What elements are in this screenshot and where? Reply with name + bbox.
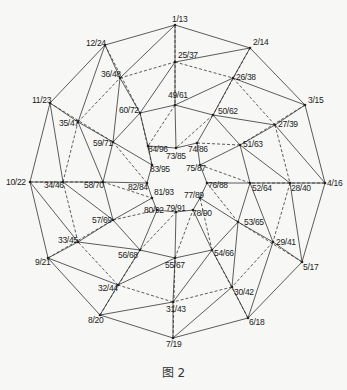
vertex-dot [139,112,142,115]
vertex-dot [112,219,115,222]
vertex-dot [151,197,154,200]
edge [113,113,140,142]
figure-caption: 图 2 [0,363,347,380]
vertex-dot [29,181,32,184]
vertex-dot [172,301,175,304]
edge [140,250,175,258]
vertex-label: 27/39 [278,119,298,129]
vertex-label: 5/17 [303,262,319,272]
edge [50,103,63,182]
edge [78,122,103,182]
vertex-dot [211,249,214,252]
edge [78,78,120,122]
vertex-label: 57/69 [92,215,112,225]
vertex-dot [139,249,142,252]
vertex-label: 12/24 [86,38,106,48]
edge [113,142,152,165]
polyhedron-diagram: 1/132/143/154/165/176/187/198/209/2110/2… [0,0,347,390]
edge [78,45,105,122]
vertex-label: 30/42 [234,287,254,297]
edge [173,250,212,302]
edge [140,210,157,250]
vertex-dot [174,104,177,107]
edge [248,242,273,318]
edge [148,105,175,146]
vertex-dot [274,124,277,127]
edge [302,183,325,262]
edge [273,183,290,242]
vertex-label: 82/84 [128,182,148,192]
vertex-label: 53/65 [244,217,264,227]
vertex-dot [249,47,252,50]
edge [30,103,50,182]
edge [105,45,140,113]
vertex-label: 58/70 [84,180,104,190]
vertex-dot [249,182,252,185]
vertex-label: 77/89 [184,190,204,200]
vertex-label: 8/20 [88,315,104,325]
vertex-label: 79/91 [166,203,186,213]
edge [240,145,290,183]
vertex-label: 49/61 [168,90,188,100]
edge [175,212,176,258]
vertex-label: 84/96 [148,144,168,154]
vertex-label: 9/21 [35,257,51,267]
vertex-label: 32/44 [98,283,118,293]
edge [78,242,140,250]
vertex-label: 54/66 [214,248,234,258]
vertex-dot [174,257,177,260]
vertex-dot [272,241,275,244]
vertices [29,24,327,340]
vertex-label: 76/88 [208,180,228,190]
vertex-label: 73/85 [166,151,186,161]
edge [50,45,105,103]
edge [63,122,78,182]
vertex-label: 35/47 [59,118,79,128]
vertex-label: 80/92 [144,205,164,215]
vertex-label: 7/19 [166,339,182,349]
vertex-label: 3/15 [308,95,324,105]
edge [213,115,240,145]
edge [197,115,213,143]
edge [103,142,113,182]
edge [48,258,118,285]
edge [290,183,302,262]
edge [78,242,118,285]
edge [118,285,173,302]
vertex-label: 25/37 [178,50,198,60]
vertex-label: 11/23 [32,95,52,105]
edges [30,25,325,338]
edge [213,115,275,125]
vertex-label: 59/71 [93,138,113,148]
vertex-dot [174,61,177,64]
vertex-label: 55/67 [165,260,185,270]
edge [233,78,275,125]
vertex-label: 31/43 [166,304,186,314]
vertex-dot [324,182,327,185]
vertex-dot [175,147,178,150]
vertex-label: 33/45 [58,235,78,245]
vertex-label: 26/38 [236,72,256,82]
vertex-dot [239,144,242,147]
edge [240,145,250,183]
vertex-label: 81/93 [154,187,174,197]
vertex-label: 83/95 [150,164,170,174]
vertex-dot [232,77,235,80]
vertex-dot [174,24,177,27]
vertex-label: 75/87 [186,163,206,173]
vertex-label: 28/40 [291,183,311,193]
vertex-labels: 1/132/143/154/165/176/187/198/209/2110/2… [6,14,343,349]
edge [175,210,193,258]
edge [113,142,147,183]
edge [175,105,213,115]
vertex-label: 4/16 [327,178,343,188]
vertex-label: 2/14 [253,37,269,47]
vertex-label: 1/13 [172,14,188,24]
vertex-label: 34/46 [44,180,64,190]
edge [200,198,212,250]
vertex-dot [304,104,307,107]
edge [140,62,175,113]
edge [140,105,175,113]
vertex-label: 29/41 [276,237,296,247]
vertex-dot [212,114,215,117]
